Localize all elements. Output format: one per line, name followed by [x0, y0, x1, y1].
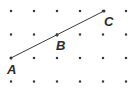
- grid-dot-r2-c5: [125, 57, 127, 59]
- grid-dot-r0-c5: [125, 10, 127, 12]
- grid-dot-r1-c0: [10, 33, 12, 35]
- grid-dot-r1-c3: [79, 33, 81, 35]
- grid-dot-r2-c1: [33, 57, 35, 59]
- grid-dot-r2-c3: [79, 57, 81, 59]
- grid-dot-r3-c1: [33, 80, 35, 82]
- point-label-c: C: [104, 15, 113, 28]
- grid-dot-r1-c5: [125, 33, 127, 35]
- grid-dot-r0-c2: [56, 10, 58, 12]
- grid-dot-r0-c1: [33, 10, 35, 12]
- grid-dot-r3-c3: [79, 80, 81, 82]
- grid-dot-r3-c0: [10, 80, 12, 82]
- grid-dot-r3-c5: [125, 80, 127, 82]
- figure-canvas: [0, 0, 140, 90]
- grid-dot-r2-c2: [56, 57, 58, 59]
- grid-dot-r1-c1: [33, 33, 35, 35]
- point-marker-a: [10, 57, 13, 60]
- point-label-b: B: [56, 39, 65, 52]
- point-marker-b: [56, 34, 59, 37]
- grid-dot-r2-c4: [102, 57, 104, 59]
- grid-dot-r3-c4: [102, 80, 104, 82]
- grid-dot-r3-c2: [56, 80, 58, 82]
- grid-dot-r1-c4: [102, 33, 104, 35]
- point-marker-c: [103, 10, 106, 13]
- point-label-a: A: [7, 63, 16, 76]
- grid-dot-r0-c3: [79, 10, 81, 12]
- geometry-figure: A B C: [0, 0, 140, 90]
- grid-dot-r0-c0: [10, 10, 12, 12]
